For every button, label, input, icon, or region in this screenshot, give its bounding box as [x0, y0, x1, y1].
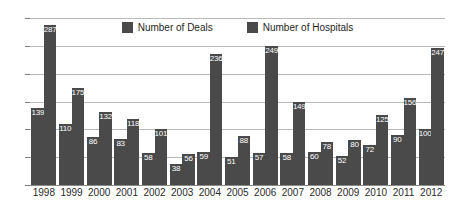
bar[interactable]: 78	[321, 142, 333, 185]
bar-value-label: 149	[293, 103, 305, 111]
x-axis-tick-label: 2003	[168, 188, 196, 198]
bar-value-label: 156	[404, 99, 416, 107]
bar[interactable]: 175	[72, 88, 84, 185]
plot-area: 050100150200250300 139287110175861328311…	[30, 18, 445, 185]
bar-value-label: 101	[155, 130, 167, 138]
bar[interactable]: 132	[99, 112, 111, 185]
legend-item-label: Number of Deals	[138, 23, 213, 33]
legend-swatch-icon	[247, 22, 258, 33]
x-axis-tick-label: 2009	[334, 188, 362, 198]
bar-group: 110175	[58, 18, 86, 185]
bar-group: 72125	[362, 18, 390, 185]
bar-group: 100247	[417, 18, 445, 185]
x-axis-tick-label: 2012	[417, 188, 445, 198]
bar[interactable]: 236	[210, 54, 222, 185]
bar-value-label: 57	[253, 154, 265, 162]
bar[interactable]: 156	[404, 98, 416, 185]
bar[interactable]: 60	[308, 152, 320, 185]
legend-item-deals[interactable]: Number of Deals	[122, 22, 213, 33]
y-axis-tick-mark	[25, 185, 30, 186]
bar[interactable]: 110	[59, 124, 71, 185]
bar[interactable]: 125	[376, 115, 388, 185]
bar-value-label: 60	[308, 153, 320, 161]
bar[interactable]: 249	[265, 46, 277, 185]
bar[interactable]: 139	[31, 108, 43, 185]
bar-value-label: 175	[72, 89, 84, 97]
x-axis-tick-label: 2000	[85, 188, 113, 198]
x-axis-tick-label: 2004	[196, 188, 224, 198]
bar-value-label: 86	[87, 138, 99, 146]
bar[interactable]: 90	[391, 135, 403, 185]
bar[interactable]: 83	[114, 139, 126, 185]
bar-value-label: 139	[31, 109, 43, 117]
bar-group: 57249	[251, 18, 279, 185]
x-axis-tick-label: 2011	[390, 188, 418, 198]
bar-value-label: 125	[376, 116, 388, 124]
bar-group: 5280	[334, 18, 362, 185]
bar[interactable]: 118	[127, 119, 139, 185]
bar-value-label: 56	[182, 155, 194, 163]
bar-value-label: 51	[225, 158, 237, 166]
bar[interactable]: 58	[142, 153, 154, 185]
bar[interactable]: 100	[419, 129, 431, 185]
bar[interactable]: 38	[170, 164, 182, 185]
bar-value-label: 236	[210, 55, 222, 63]
bar-value-label: 132	[99, 113, 111, 121]
bar-group: 58101	[141, 18, 169, 185]
bar-value-label: 83	[114, 140, 126, 148]
x-axis-tick-label: 1998	[30, 188, 58, 198]
bar-value-label: 90	[391, 136, 403, 144]
bar[interactable]: 88	[238, 136, 250, 185]
bar-value-label: 80	[348, 141, 360, 149]
x-axis-tick-label: 2001	[113, 188, 141, 198]
bar-value-label: 247	[431, 49, 443, 57]
bar-value-label: 72	[363, 146, 375, 154]
x-axis-tick-label: 2005	[224, 188, 252, 198]
legend-item-label: Number of Hospitals	[263, 23, 354, 33]
x-axis-tick-label: 2002	[141, 188, 169, 198]
legend-swatch-icon	[122, 22, 133, 33]
bar-value-label: 249	[265, 47, 277, 55]
bar[interactable]: 101	[155, 129, 167, 185]
bar-group: 86132	[85, 18, 113, 185]
bar[interactable]: 57	[253, 153, 265, 185]
bar-value-label: 100	[419, 130, 431, 138]
bar[interactable]: 52	[336, 156, 348, 185]
bar-value-label: 110	[59, 125, 71, 133]
x-axis-labels: 1998199920002001200220032004200520062007…	[30, 188, 445, 198]
bar[interactable]: 80	[348, 140, 360, 185]
bar[interactable]: 58	[280, 153, 292, 185]
bar-group: 139287	[30, 18, 58, 185]
bars-layer: 1392871101758613283118581013856592365188…	[30, 18, 445, 185]
bar-group: 90156	[390, 18, 418, 185]
x-axis-tick-label: 2008	[307, 188, 335, 198]
bar[interactable]: 86	[87, 137, 99, 185]
bar[interactable]: 287	[44, 25, 56, 185]
bar-group: 3856	[168, 18, 196, 185]
legend-item-hospitals[interactable]: Number of Hospitals	[247, 22, 354, 33]
bar-value-label: 52	[336, 157, 348, 165]
x-axis-tick-label: 2006	[251, 188, 279, 198]
bar-value-label: 58	[280, 154, 292, 162]
x-axis-tick-label: 2010	[362, 188, 390, 198]
bar-group: 83118	[113, 18, 141, 185]
bar[interactable]: 149	[293, 102, 305, 185]
x-axis-tick-label: 2007	[279, 188, 307, 198]
bar-value-label: 118	[127, 120, 139, 128]
bar-group: 59236	[196, 18, 224, 185]
bar-group: 6078	[307, 18, 335, 185]
gridline	[30, 185, 445, 186]
bar[interactable]: 51	[225, 157, 237, 185]
x-axis-tick-label: 1999	[58, 188, 86, 198]
bar-value-label: 88	[238, 137, 250, 145]
bar[interactable]: 56	[182, 154, 194, 185]
bar-value-label: 38	[170, 165, 182, 173]
bar-group: 5188	[224, 18, 252, 185]
bar-value-label: 78	[321, 143, 333, 151]
bar-chart: 050100150200250300 139287110175861328311…	[0, 0, 450, 217]
bar-group: 58149	[279, 18, 307, 185]
bar[interactable]: 72	[363, 145, 375, 185]
bar-value-label: 58	[142, 154, 154, 162]
bar[interactable]: 247	[431, 48, 443, 185]
bar[interactable]: 59	[197, 152, 209, 185]
